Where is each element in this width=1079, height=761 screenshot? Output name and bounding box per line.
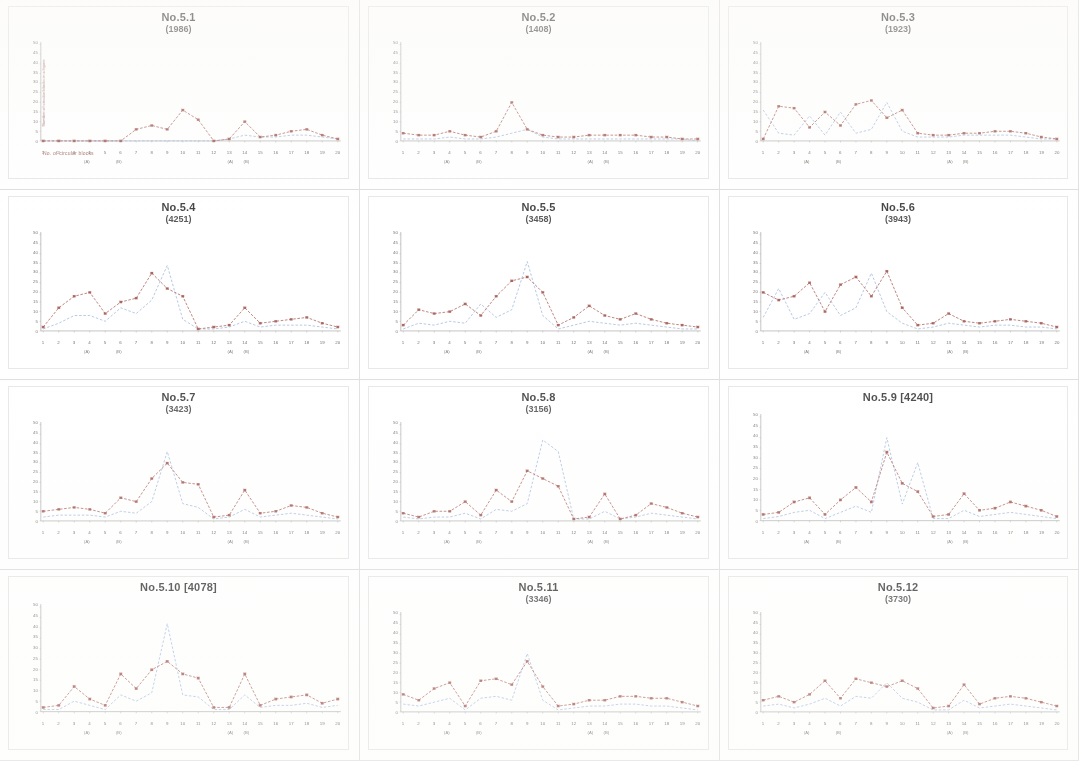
data-point-marker <box>1025 320 1028 322</box>
series-line-expected <box>403 654 698 710</box>
x-sub-label: (B) <box>604 159 610 164</box>
data-point-marker <box>978 322 981 324</box>
data-point-marker <box>495 678 498 680</box>
y-tick-label: 15 <box>753 488 758 492</box>
data-point-marker <box>978 703 981 705</box>
data-point-marker <box>57 140 60 142</box>
y-tick-label: 0 <box>36 140 38 144</box>
data-point-marker <box>417 134 420 136</box>
data-point-marker <box>259 704 262 707</box>
data-point-marker <box>916 687 919 689</box>
axis-lines <box>761 414 1060 521</box>
x-sub-label: (A) <box>947 349 953 354</box>
data-point-marker <box>290 130 293 132</box>
y-tick-label: 0 <box>396 140 398 144</box>
plot-svg <box>39 41 342 144</box>
data-point-marker <box>777 511 780 513</box>
x-sub-label: (A) <box>588 730 594 735</box>
y-tick-label: 35 <box>753 445 758 449</box>
data-point-marker <box>808 282 811 284</box>
x-axis-sub-labels: (A)(B)(A)(B) <box>39 539 342 548</box>
data-point-marker <box>665 506 668 508</box>
plot-area <box>399 611 702 715</box>
plot-area <box>39 421 342 524</box>
data-point-marker <box>634 514 637 516</box>
data-point-marker <box>994 320 997 322</box>
y-tick-label: 45 <box>33 51 38 55</box>
data-point-marker <box>588 699 591 701</box>
data-point-marker <box>526 470 529 472</box>
plot-area <box>399 231 702 334</box>
series-line-observed <box>403 277 698 327</box>
y-tick-label: 5 <box>396 510 398 514</box>
y-axis-tick-labels: 50454035302520151050 <box>21 231 38 334</box>
chart-panel: No.5.11(3346)504540353025201510501234567… <box>360 570 720 761</box>
data-point-marker <box>885 117 888 119</box>
data-point-marker <box>808 497 811 499</box>
y-tick-label: 10 <box>753 120 758 124</box>
data-point-marker <box>1009 695 1012 697</box>
data-point-marker <box>932 322 935 324</box>
data-point-marker <box>1009 501 1012 503</box>
data-point-marker <box>762 291 765 293</box>
data-point-marker <box>932 134 935 136</box>
data-point-marker <box>762 138 765 140</box>
y-axis-title: Number of circular blocks in a figure <box>41 59 46 126</box>
series-line-observed <box>763 100 1057 139</box>
data-point-marker <box>855 486 858 488</box>
data-point-marker <box>901 307 904 309</box>
y-tick-label: 0 <box>396 711 398 715</box>
x-sub-label: (B) <box>244 159 250 164</box>
x-sub-label: (A) <box>947 539 953 544</box>
data-point-marker <box>479 314 482 316</box>
chart-title: No.5.3 <box>729 11 1067 24</box>
data-point-marker <box>916 324 919 326</box>
axis-lines <box>401 42 701 141</box>
y-tick-label: 25 <box>393 280 398 284</box>
y-tick-label: 35 <box>753 641 758 645</box>
chart-title-block: No.5.4(4251) <box>9 201 348 224</box>
series-line-expected <box>403 440 698 519</box>
data-point-marker <box>665 136 668 138</box>
data-point-marker <box>228 706 231 709</box>
data-point-marker <box>696 326 699 328</box>
plot-area <box>39 603 342 715</box>
data-point-marker <box>274 134 277 136</box>
chart-title: No.5.2 <box>369 11 708 24</box>
data-point-marker <box>978 509 981 511</box>
data-point-marker <box>1055 138 1058 140</box>
data-point-marker <box>885 451 888 453</box>
y-tick-label: 15 <box>753 681 758 685</box>
chart-title-block: No.5.3(1923) <box>729 11 1067 34</box>
data-point-marker <box>947 312 950 314</box>
chart-title-block: No.5.6(3943) <box>729 201 1067 224</box>
data-point-marker <box>212 326 215 328</box>
y-tick-label: 10 <box>393 500 398 504</box>
y-tick-label: 25 <box>33 657 38 661</box>
data-point-marker <box>228 138 231 140</box>
y-axis-tick-labels: 50454035302520151050 <box>21 421 38 524</box>
data-point-marker <box>793 501 796 503</box>
y-tick-label: 30 <box>33 646 38 650</box>
plot-svg <box>759 41 1061 144</box>
y-axis-tick-labels: 50454035302520151050 <box>381 231 398 334</box>
data-point-marker <box>526 276 529 278</box>
y-tick-label: 40 <box>753 61 758 65</box>
y-tick-label: 10 <box>33 689 38 693</box>
data-point-marker <box>73 295 76 297</box>
data-point-marker <box>228 324 231 326</box>
chart-frame: No.5.3(1923)5045403530252015105012345678… <box>728 6 1068 179</box>
x-sub-label: (A) <box>804 159 810 164</box>
data-point-marker <box>572 703 575 705</box>
data-point-marker <box>243 307 246 309</box>
data-point-marker <box>901 482 904 484</box>
data-point-marker <box>433 312 436 314</box>
x-sub-label: (A) <box>444 349 450 354</box>
x-sub-label: (A) <box>84 730 90 735</box>
y-tick-label: 40 <box>753 434 758 438</box>
data-point-marker <box>181 673 184 676</box>
data-point-marker <box>259 512 262 514</box>
x-sub-label: (B) <box>963 539 969 544</box>
data-point-marker <box>243 673 246 676</box>
data-point-marker <box>290 696 293 699</box>
